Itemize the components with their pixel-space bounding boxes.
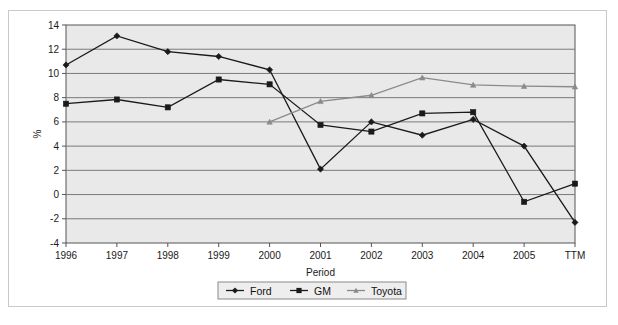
data-point-gm — [369, 129, 374, 134]
y-tick-label: 12 — [48, 44, 60, 55]
y-tick-label: 8 — [53, 92, 59, 103]
x-tick-label: 2001 — [309, 250, 332, 261]
y-tick-label: 14 — [48, 20, 60, 31]
data-point-gm — [267, 82, 272, 87]
data-point-gm — [471, 110, 476, 115]
y-axis: -4-202468101214 — [48, 20, 66, 249]
y-tick-label: -2 — [50, 213, 59, 224]
x-tick-label: 2000 — [258, 250, 281, 261]
x-tick-label: TTM — [565, 250, 586, 261]
chart-legend: FordGMToyota — [218, 282, 406, 299]
y-tick-label: 4 — [53, 141, 59, 152]
data-point-gm — [63, 101, 68, 106]
y-tick-label: 10 — [48, 68, 60, 79]
data-point-gm — [318, 122, 323, 127]
x-tick-label: 2003 — [411, 250, 434, 261]
legend-label-ford: Ford — [250, 285, 272, 297]
y-tick-label: 2 — [53, 165, 59, 176]
x-tick-label: 2004 — [462, 250, 485, 261]
x-tick-label: 1998 — [157, 250, 180, 261]
x-axis: 1996199719981999200020012002200320042005… — [55, 243, 585, 261]
x-axis-title-label: Period — [306, 267, 335, 278]
x-tick-label: 1997 — [106, 250, 129, 261]
legend-label-gm: GM — [314, 285, 331, 297]
chart-figure: -4-202468101214 199619971998199920002001… — [0, 0, 618, 325]
x-tick-label: 1999 — [208, 250, 231, 261]
line-chart: -4-202468101214 199619971998199920002001… — [0, 0, 618, 325]
y-axis-title-label: % — [32, 129, 43, 138]
plot-area-background — [66, 25, 575, 243]
y-tick-label: 0 — [53, 189, 59, 200]
y-tick-label: -4 — [50, 238, 59, 249]
data-point-gm — [216, 77, 221, 82]
plot-area — [66, 25, 575, 243]
x-tick-label: 2002 — [360, 250, 383, 261]
data-point-gm — [572, 181, 577, 186]
legend-label-toyota: Toyota — [371, 285, 402, 297]
x-tick-label: 2005 — [513, 250, 536, 261]
data-point-gm — [165, 105, 170, 110]
x-axis-title: Period — [306, 267, 335, 278]
y-tick-label: 6 — [53, 116, 59, 127]
data-point-gm — [114, 97, 119, 102]
data-point-gm — [522, 199, 527, 204]
legend-marker-gm — [296, 288, 301, 293]
y-axis-title: % — [32, 129, 43, 138]
x-tick-label: 1996 — [55, 250, 78, 261]
data-point-gm — [420, 111, 425, 116]
